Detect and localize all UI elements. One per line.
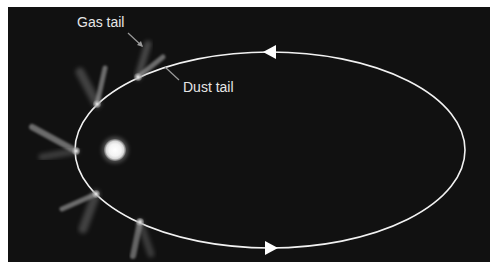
sun (104, 139, 126, 161)
comet-head (134, 73, 142, 81)
comet-head (93, 100, 101, 108)
dust-tail-label: Dust tail (183, 79, 234, 95)
comet-orbit-diagram: Gas tail Dust tail (0, 0, 495, 270)
comet-head (72, 147, 80, 155)
comet-head (92, 190, 100, 198)
gas-tail-label: Gas tail (77, 14, 124, 30)
comet-head (136, 218, 144, 226)
